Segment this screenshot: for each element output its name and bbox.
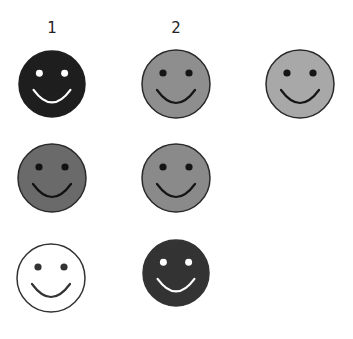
smiley-face-icon [142, 50, 210, 118]
smiley-face-icon [17, 244, 85, 312]
left-eye-icon [159, 69, 166, 76]
right-eye-icon [185, 259, 192, 266]
left-eye-icon [160, 259, 167, 266]
smiley-face-icon [18, 144, 86, 212]
right-eye-icon [60, 263, 67, 270]
right-eye-icon [185, 69, 192, 76]
left-eye-icon [36, 70, 43, 77]
left-eye-icon [34, 263, 41, 270]
face-circle [142, 50, 210, 118]
face-circle [19, 51, 85, 117]
smiley-face-icon [142, 144, 210, 212]
right-eye-icon [61, 163, 68, 170]
smiley-face-icon [143, 240, 209, 306]
left-eye-icon [159, 163, 166, 170]
left-eye-icon [35, 163, 42, 170]
smiley-face-icon [266, 50, 334, 118]
left-eye-icon [283, 69, 290, 76]
right-eye-icon [185, 163, 192, 170]
right-eye-icon [309, 69, 316, 76]
face-circle [17, 244, 85, 312]
right-eye-icon [61, 70, 68, 77]
smiley-grid [0, 0, 353, 339]
face-circle [143, 240, 209, 306]
smiley-face-icon [19, 51, 85, 117]
face-circle [142, 144, 210, 212]
face-circle [266, 50, 334, 118]
face-circle [18, 144, 86, 212]
